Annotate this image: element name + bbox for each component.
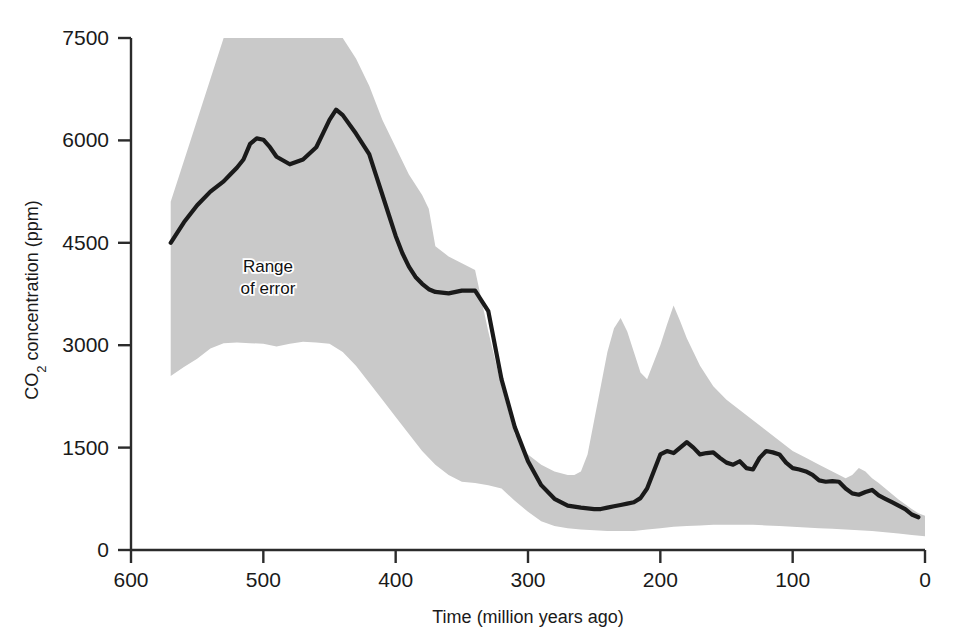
y-tick-label: 1500 (62, 436, 109, 459)
x-axis-title: Time (million years ago) (432, 607, 623, 627)
y-tick-label: 7500 (62, 26, 109, 49)
y-tick-label: 3000 (62, 333, 109, 356)
x-tick-label: 300 (510, 568, 545, 591)
annotation-line-1: Range (243, 257, 293, 276)
co2-concentration-chart: 015003000450060007500 600500400300200100… (0, 0, 961, 643)
y-axis-title-subscript: 2 (34, 365, 49, 372)
x-tick-label: 500 (246, 568, 281, 591)
x-tick-label: 200 (643, 568, 678, 591)
y-tick-label: 0 (97, 538, 109, 561)
y-tick-label: 6000 (62, 128, 109, 151)
annotation-line-2: of error (241, 279, 296, 298)
y-axis-title-suffix: concentration (ppm) (22, 200, 42, 365)
chart-canvas: 015003000450060007500 600500400300200100… (0, 0, 961, 643)
x-tick-label: 600 (113, 568, 148, 591)
x-tick-label: 100 (775, 568, 810, 591)
y-axis-title-prefix: CO (22, 373, 42, 400)
x-tick-label: 400 (378, 568, 413, 591)
x-tick-label: 0 (919, 568, 931, 591)
y-tick-label: 4500 (62, 231, 109, 254)
